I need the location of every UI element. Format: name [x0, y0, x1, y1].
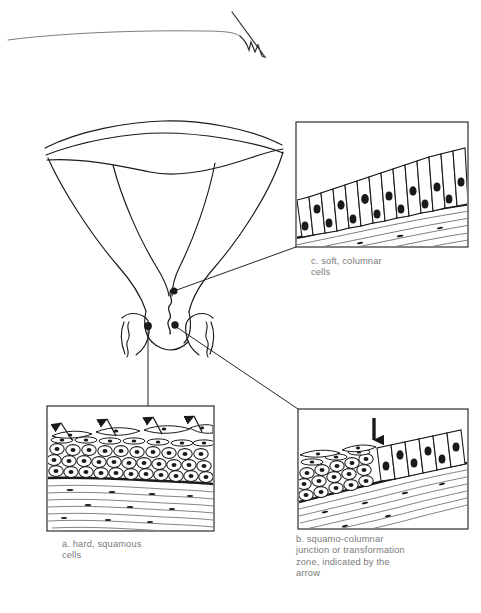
panel-c-caption: c. soft, columnar cells — [311, 256, 451, 279]
uterus-cervix-drawing — [45, 121, 283, 357]
leader-to-panel-c — [174, 247, 296, 291]
marker-os — [171, 321, 178, 328]
scan-artifact-scribble — [8, 12, 265, 57]
diagram-svg — [0, 0, 481, 613]
panel-a-caption: a. hard, squamous cells — [62, 539, 212, 562]
panel-b-junction — [297, 409, 468, 544]
panel-b-caption: b. squamo-columnar junction or transform… — [296, 534, 446, 580]
marker-ectocervix — [144, 322, 152, 330]
markers — [144, 288, 179, 330]
leader-lines — [148, 247, 298, 409]
marker-endocervix — [171, 288, 178, 295]
leader-to-panel-b — [175, 326, 298, 409]
panel-a-squamous — [47, 406, 215, 531]
figure-canvas: c. soft, columnar cells a. hard, squamou… — [0, 0, 481, 613]
